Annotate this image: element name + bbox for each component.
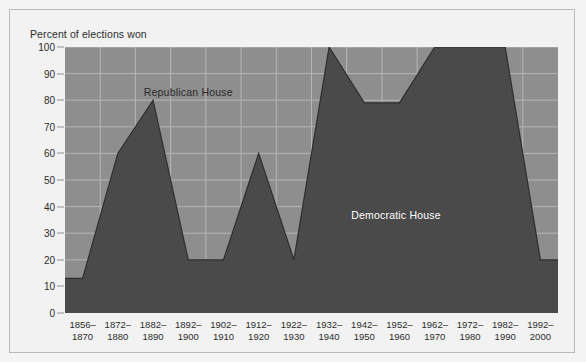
area-chart-svg [65, 47, 558, 313]
x-axis-tick-label: 1952–1960 [386, 319, 412, 342]
y-axis-tick-label: 70 [7, 121, 55, 132]
x-axis-tick-label: 1932–1940 [316, 319, 342, 342]
x-axis-tick-label: 1872–1880 [105, 319, 131, 342]
y-axis-title: Percent of elections won [30, 28, 147, 40]
x-axis-tick-label: 1856–1870 [69, 319, 95, 342]
y-axis-tick-mark [57, 47, 64, 48]
y-axis-tick-mark [57, 153, 64, 154]
y-axis-tick-mark [57, 233, 64, 234]
x-axis-tick-label: 1942–1950 [351, 319, 377, 342]
y-axis-tick-mark [57, 126, 64, 127]
series-label-democratic-house: Democratic House [351, 209, 441, 221]
plot-wrapper: 0102030405060708090100 1856–18701872–188… [65, 47, 558, 313]
y-axis-tick-label: 30 [7, 228, 55, 239]
y-axis-tick-label: 40 [7, 201, 55, 212]
x-axis-tick-label: 1882–1890 [140, 319, 166, 342]
x-axis-tick-label: 1962–1970 [422, 319, 448, 342]
y-axis-tick-label: 100 [7, 42, 55, 53]
x-axis-tick-label: 1982–1990 [492, 319, 518, 342]
y-axis-tick-mark [57, 259, 64, 260]
plot-area [65, 47, 558, 313]
y-axis-tick-label: 80 [7, 95, 55, 106]
x-axis-tick-label: 1922–1930 [281, 319, 307, 342]
series-label-republican-house: Republican House [144, 86, 233, 98]
y-axis-tick-label: 0 [7, 308, 55, 319]
y-axis-tick-mark [57, 286, 64, 287]
y-axis-tick-mark [57, 73, 64, 74]
y-axis-tick-label: 60 [7, 148, 55, 159]
y-axis-tick-mark [57, 100, 64, 101]
chart-frame: Percent of elections won 010203040506070… [9, 9, 575, 353]
y-axis-tick-label: 20 [7, 254, 55, 265]
y-axis-tick-label: 10 [7, 281, 55, 292]
x-axis-tick-label: 1902–1910 [210, 319, 236, 342]
x-axis-tick-label: 1992–2000 [527, 319, 553, 342]
x-axis-tick-label: 1892–1900 [175, 319, 201, 342]
y-axis-tick-mark [57, 206, 64, 207]
chart-figure: Percent of elections won 010203040506070… [0, 0, 586, 362]
y-axis-tick-label: 90 [7, 68, 55, 79]
x-axis-tick-label: 1912–1920 [245, 319, 271, 342]
y-axis-tick-mark [57, 313, 64, 314]
y-axis-tick-mark [57, 180, 64, 181]
y-axis-tick-label: 50 [7, 175, 55, 186]
x-axis-tick-label: 1972–1980 [457, 319, 483, 342]
